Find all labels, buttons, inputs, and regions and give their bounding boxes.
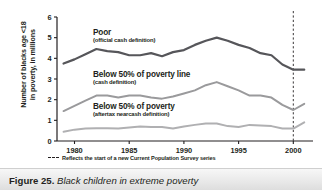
series-label-below50-aftertax: Below 50% of poverty (aftertax nearcash …	[93, 102, 175, 118]
x-axis-tick-label: 1985	[121, 146, 137, 155]
series-label-below50-cash: Below 50% of poverty line (cash definiti…	[93, 70, 190, 86]
series-line-2	[64, 122, 305, 131]
series-label-below50-cash-subtitle: (cash definition)	[93, 79, 190, 86]
y-axis-tick-label: 0	[47, 137, 51, 146]
y-axis-tick-label: 3	[47, 75, 51, 84]
series-label-below50-aftertax-subtitle: (aftertax nearcash definition)	[93, 111, 175, 118]
x-axis-tick-label: 2000	[285, 146, 301, 155]
footnote-text: Reflects the start of a new Current Popu…	[62, 155, 215, 161]
figure-black-children-extreme-poverty: Number of blacks age <18 in poverty, in …	[0, 0, 322, 190]
footnote: Reflects the start of a new Current Popu…	[48, 155, 215, 161]
chart-plot-area: Number of blacks age <18 in poverty, in …	[0, 0, 322, 168]
x-axis-tick-label: 1990	[176, 146, 192, 155]
series-label-poor: Poor (official cash definition)	[93, 28, 155, 44]
figure-caption-title: Black children in extreme poverty	[57, 175, 198, 186]
figure-caption-number: Figure 25.	[9, 175, 54, 186]
x-axis-tick-label: 1995	[230, 146, 246, 155]
y-axis-tick-label: 4	[47, 54, 52, 63]
series-label-below50-cash-title: Below 50% of poverty line	[93, 70, 190, 79]
y-axis-tick-label: 1	[47, 116, 51, 125]
figure-caption: Figure 25. Black children in extreme pov…	[0, 175, 198, 186]
series-label-below50-aftertax-title: Below 50% of poverty	[93, 102, 175, 111]
y-axis-tick-label: 6	[47, 13, 51, 22]
x-axis-tick-label: 1980	[66, 146, 82, 155]
y-axis-tick-label: 2	[47, 95, 51, 104]
figure-caption-bar: Figure 25. Black children in extreme pov…	[0, 168, 322, 190]
series-label-poor-subtitle: (official cash definition)	[93, 37, 155, 44]
series-label-poor-title: Poor	[93, 28, 155, 37]
dashed-line-key-icon	[48, 157, 59, 158]
y-axis-tick-label: 5	[47, 33, 51, 42]
